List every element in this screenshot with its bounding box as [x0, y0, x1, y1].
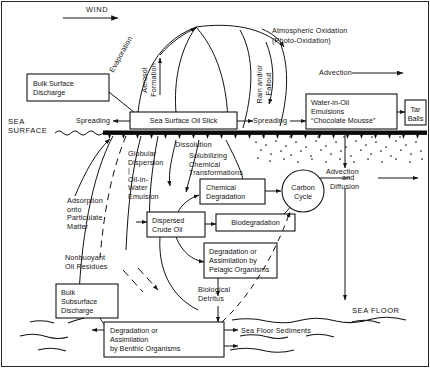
right-descent-curve	[280, 45, 287, 126]
aerosol-formation-label: Aerosol Formation	[141, 50, 158, 110]
atmospheric-oxidation-line1: Atmospheric Oxidation	[272, 27, 347, 36]
dispersed-to-benthic-curve	[160, 237, 198, 310]
bulk-subsurface-discharge-label: Bulk Subsurface Discharge	[61, 288, 97, 315]
degradation-benthic-label: Degradation or Assimilation by Benthic O…	[110, 326, 180, 353]
wind-label: WIND	[86, 6, 108, 15]
dispersed-crude-oil-label: Dispersed Crude Oil	[152, 216, 184, 234]
sea-floor-label: SEA FLOOR	[352, 306, 400, 315]
apex-arc	[196, 25, 281, 45]
advection-diffusion-line3: Diffusion	[330, 183, 359, 192]
water-in-oil-emulsions-label: Water-in-Oil Emulsions “Chocolate Mousse…	[311, 98, 375, 125]
sea-floor-sediments-label: Sea Floor Sediments	[241, 327, 311, 336]
settling-dashes	[123, 268, 158, 292]
biological-detritus-label: Biological Detritus	[198, 286, 230, 303]
degradation-pelagic-label: Degradation or Assimilation by Pelagic O…	[209, 247, 269, 274]
dispersed-to-pelagic-arrow	[176, 237, 204, 262]
adsorption-label: Adsorption onto Particulate Matter	[67, 197, 103, 231]
globular-dispersion-label: Globular Dispersion | Oil-in- Water Emul…	[128, 150, 163, 202]
atmospheric-oxidation-line2: (Photo-Oxidation)	[272, 37, 331, 46]
spreading-right-label: Spreading	[253, 117, 287, 126]
bulk-surface-discharge-label: Bulk Surface Discharge	[33, 79, 74, 97]
tar-balls-label: Tar Balls	[405, 105, 426, 123]
resurfacing-arrow	[75, 139, 110, 196]
lens-right-outer-curve	[240, 30, 251, 128]
sea-surface-wave-left	[55, 131, 111, 135]
sea-surface-label: SEA SURFACE	[8, 117, 47, 136]
chemical-degradation-label: Chemical Degradation	[206, 183, 245, 201]
dispersed-droplet-stipple	[255, 136, 423, 163]
solubilizing-label: Solubilizing Chemical Transformations	[189, 152, 243, 178]
spreading-left-label: Spreading	[76, 117, 110, 126]
advection-top-label: Advection	[319, 69, 352, 78]
evaporation-arrow	[160, 28, 196, 55]
nonbuoyant-label: Nonbuoyant Oil Residues	[65, 254, 108, 271]
sea-surface-oil-slick-label: Sea Surface Oil Slick	[130, 116, 237, 125]
dissolution-label: Dissolution	[175, 141, 212, 150]
carbon-cycle-label: Carbon Cycle	[285, 184, 321, 201]
biodegradation-label: Biodegradation	[216, 218, 295, 227]
sea-surface-slick-band	[103, 131, 427, 135]
dispersed-to-chemdeg-arrow	[178, 195, 199, 212]
rain-fallout-label: Rain and/or Fallout	[256, 56, 273, 112]
oil-spill-fate-diagram: WIND Evaporation Aerosol Formation Rain …	[0, 0, 430, 368]
surface-to-deep-dashed-1	[100, 136, 126, 258]
